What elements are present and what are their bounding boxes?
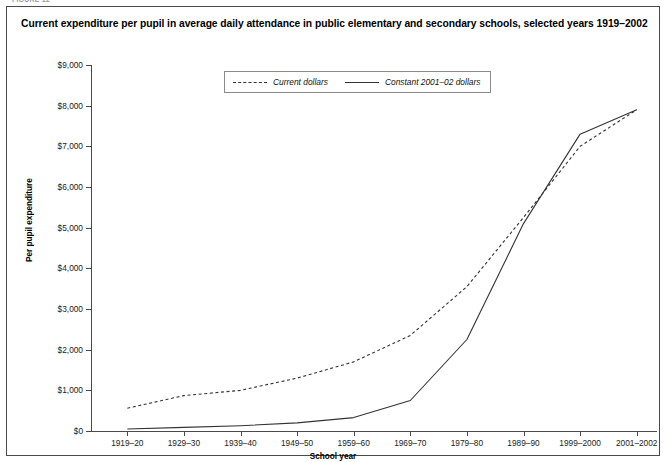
y-axis-tick [86, 65, 91, 66]
x-axis-tick [184, 431, 185, 436]
y-axis-title: Per pupil expenditure [25, 178, 34, 262]
legend-swatch-dashed-icon [233, 82, 267, 83]
y-axis-tick-label: $9,000 [58, 60, 83, 70]
page-title: Current expenditure per pupil in average… [21, 18, 651, 30]
x-axis-tick [127, 431, 128, 436]
x-axis-tick [354, 431, 355, 436]
series-layer [91, 65, 657, 431]
figure-kicker: FIGURE 12 [12, 0, 50, 4]
x-axis-tick [241, 431, 242, 436]
y-axis-tick [86, 106, 91, 107]
x-axis-line [91, 431, 657, 432]
y-axis-tick-label: $2,000 [58, 345, 83, 355]
y-axis-tick-label: $5,000 [58, 223, 83, 233]
y-axis-tick-label: $3,000 [58, 304, 83, 314]
y-axis-tick-label: $0 [74, 426, 83, 436]
y-axis-tick-label: $4,000 [58, 263, 83, 273]
y-axis-tick-label: $7,000 [58, 141, 83, 151]
x-axis-tick-label: 1989–90 [507, 438, 539, 448]
y-axis-tick [86, 350, 91, 351]
legend-label: Constant 2001–02 dollars [385, 77, 480, 87]
chart-legend: Current dollars Constant 2001–02 dollars [224, 71, 491, 93]
y-axis-tick [86, 390, 91, 391]
y-axis-tick [86, 268, 91, 269]
x-axis-tick [467, 431, 468, 436]
x-axis-tick-label: 1929–30 [168, 438, 200, 448]
x-axis-tick [580, 431, 581, 436]
y-axis-tick [86, 228, 91, 229]
x-axis-tick-label: 1979–80 [451, 438, 483, 448]
y-axis-tick [86, 187, 91, 188]
legend-entry-constant-dollars: Constant 2001–02 dollars [345, 77, 480, 87]
x-axis-tick [637, 431, 638, 436]
plot-area: $0$1,000$2,000$3,000$4,000$5,000$6,000$7… [91, 65, 657, 431]
series-line-constant-2001-02-dollars [127, 110, 636, 429]
x-axis-tick [410, 431, 411, 436]
legend-label: Current dollars [273, 77, 328, 87]
x-axis-tick-label: 1969–70 [394, 438, 426, 448]
y-axis-tick [86, 431, 91, 432]
series-line-current-dollars [127, 110, 636, 408]
x-axis-tick [524, 431, 525, 436]
y-axis-tick-label: $8,000 [58, 101, 83, 111]
x-axis-tick-label: 2001–2002 [616, 438, 658, 448]
x-axis-tick-label: 1939–40 [224, 438, 256, 448]
x-axis-tick-label: 1999–2000 [559, 438, 601, 448]
legend-swatch-solid-icon [345, 82, 379, 83]
x-axis-tick-label: 1949–50 [281, 438, 313, 448]
y-axis-tick [86, 146, 91, 147]
y-axis-tick-label: $1,000 [58, 385, 83, 395]
y-axis-tick [86, 309, 91, 310]
x-axis-tick-label: 1959–60 [338, 438, 370, 448]
figure-frame: Current expenditure per pupil in average… [6, 6, 660, 456]
y-axis-tick-label: $6,000 [58, 182, 83, 192]
x-axis-tick-label: 1919–20 [111, 438, 143, 448]
x-axis-title: School year [7, 452, 659, 461]
x-axis-tick [297, 431, 298, 436]
legend-entry-current-dollars: Current dollars [233, 77, 328, 87]
